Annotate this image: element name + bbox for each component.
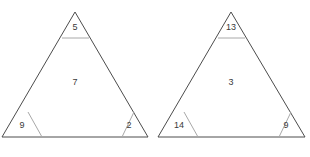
right-triangle-group: 13 3 14 9 <box>158 12 305 137</box>
left-triangle-bottom-left-label: 9 <box>19 120 24 130</box>
left-triangle-group: 5 7 9 2 <box>2 12 148 137</box>
left-triangle-apex-label: 5 <box>72 22 77 32</box>
right-triangle-bottom-right-label: 9 <box>283 120 288 130</box>
left-triangle-interior-label: 7 <box>72 77 77 87</box>
left-triangle-bottom-right-label: 2 <box>126 120 131 130</box>
right-triangle-apex-label: 13 <box>226 22 236 32</box>
right-triangle-bottom-left-label: 14 <box>174 120 184 130</box>
diagram-canvas: 5 7 9 2 13 3 14 9 <box>0 0 310 157</box>
right-triangle-interior-label: 3 <box>228 77 233 87</box>
geometry-diagram-container: 5 7 9 2 13 3 14 9 <box>0 0 310 157</box>
